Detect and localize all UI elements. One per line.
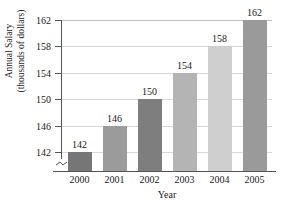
y-axis-tick (55, 152, 62, 153)
y-axis-label: 142 (25, 147, 51, 158)
bar (243, 20, 267, 171)
gridline (62, 126, 272, 127)
x-axis-line (53, 171, 276, 172)
bar-chart: Annual Salary (thousands of dollars) 142… (0, 0, 284, 207)
bar-value-label: 142 (58, 139, 102, 150)
gridline (62, 46, 272, 47)
gridline (62, 20, 272, 21)
bar (138, 99, 162, 171)
gridline (62, 152, 272, 153)
bar-value-label: 158 (198, 33, 242, 44)
gridline (62, 73, 272, 74)
bar-value-label: 146 (93, 113, 137, 124)
y-axis-tick (55, 99, 62, 100)
bar (173, 73, 197, 171)
bar-value-label: 150 (128, 86, 172, 97)
y-axis-label: 150 (25, 94, 51, 105)
y-axis-label: 162 (25, 15, 51, 26)
bar-value-label: 162 (233, 7, 277, 18)
bar (68, 152, 92, 171)
x-axis-title: Year (62, 189, 272, 200)
y-axis-label: 158 (25, 41, 51, 52)
y-axis-tick (55, 73, 62, 74)
bar (103, 126, 127, 171)
y-axis-tick (55, 46, 62, 47)
gridline (62, 99, 272, 100)
y-axis-label: 146 (25, 120, 51, 131)
bar (208, 46, 232, 171)
y-axis-tick (55, 20, 62, 21)
y-axis-title-line1: Annual Salary (4, 0, 16, 121)
bar-value-label: 154 (163, 60, 207, 71)
y-axis-tick (55, 126, 62, 127)
x-axis-label: 2005 (233, 174, 277, 185)
y-axis-label: 154 (25, 67, 51, 78)
